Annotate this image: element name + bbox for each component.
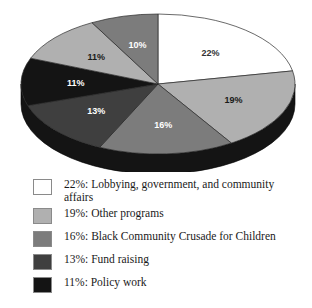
legend-swatch [33,208,52,224]
pie-slice-label: 13% [87,106,105,116]
legend-item[interactable]: 11%: Policy work [33,276,147,293]
legend-swatch [33,277,52,293]
pie-slice-label: 11% [67,78,85,88]
pie-chart-figure: 22%19%16%13%11%11%10% 22%: Lobbying, gov… [0,0,312,308]
legend-label: 13%: Fund raising [64,253,149,266]
legend-item[interactable]: 16%: Black Community Crusade for Childre… [33,230,276,247]
pie-slice-label: 22% [201,48,219,58]
legend-item[interactable]: 13%: Fund raising [33,253,149,270]
pie-chart-svg: 22%19%16%13%11%11%10% [0,0,312,172]
legend-label: 16%: Black Community Crusade for Childre… [64,230,276,243]
legend-swatch [33,231,52,247]
chart-legend: 22%: Lobbying, government, and community… [0,174,312,308]
pie-slice-label: 16% [154,120,172,130]
pie-chart-area: 22%19%16%13%11%11%10% [0,0,312,172]
legend-swatch [33,254,52,270]
legend-item[interactable]: 19%: Other programs [33,207,164,224]
legend-label: 19%: Other programs [64,207,164,220]
legend-label: 22%: Lobbying, government, and community… [64,178,274,204]
pie-slice-label: 10% [129,40,147,50]
pie-slice-label: 19% [224,95,242,105]
legend-item[interactable]: 22%: Lobbying, government, and community… [33,178,274,204]
pie-slice-label: 11% [88,52,106,62]
legend-swatch [33,179,52,195]
legend-label: 11%: Policy work [64,276,147,289]
